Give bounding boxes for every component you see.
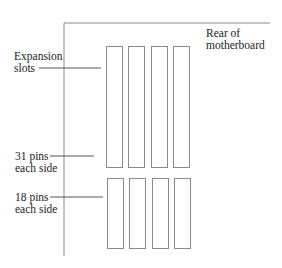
label-rear-of-motherboard: Rear of motherboard [206,27,265,51]
label-line: each side [15,162,57,174]
slot [130,179,146,249]
slot [108,179,124,249]
label-line: Expansion [14,50,63,62]
slot [153,179,169,249]
slot-row-bottom [108,179,191,249]
label-line: motherboard [206,39,265,51]
label-31-pins: 31 pins each side [15,150,57,174]
label-line: each side [15,203,57,215]
slot [107,47,123,168]
label-line: slots [14,62,63,74]
slot [174,47,190,168]
label-line: 31 pins [15,150,57,162]
label-line: 18 pins [15,191,57,203]
slot [129,47,145,168]
label-line: Rear of [206,27,265,39]
slot-row-top [107,47,190,168]
slot [152,47,168,168]
label-18-pins: 18 pins each side [15,191,57,215]
slot [175,179,191,249]
label-expansion-slots: Expansion slots [14,50,63,74]
